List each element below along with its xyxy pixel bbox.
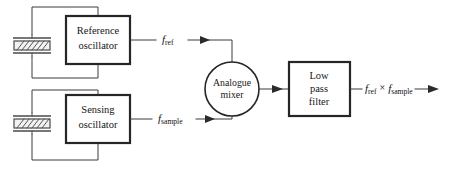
- schematic-diagram: Reference oscillator fref Sensing: [0, 0, 463, 178]
- f-ref-label: fref: [162, 33, 174, 47]
- sensing-crystal-body: [14, 119, 50, 128]
- reference-oscillator-label-line2: oscillator: [78, 40, 118, 51]
- sensing-oscillator-label-line2: oscillator: [78, 119, 118, 130]
- sensing-oscillator-label-line1: Sensing: [81, 104, 115, 115]
- f-sample-label: fsample: [158, 112, 183, 126]
- low-pass-filter-label-line2: pass: [310, 83, 328, 94]
- analogue-mixer-label-line1: Analogue: [213, 77, 252, 88]
- reference-to-mixer-wire: [188, 40, 232, 62]
- f-ref-subscript: ref: [165, 37, 174, 46]
- low-pass-filter-label-line1: Low: [309, 70, 329, 81]
- output-operator: ×: [380, 82, 386, 93]
- reference-to-mixer-arrowhead: [200, 36, 210, 44]
- sensing-to-mixer-arrowhead: [205, 115, 215, 123]
- mixer-to-filter-arrowhead: [272, 85, 283, 93]
- f-sample-subscript: sample: [161, 116, 183, 125]
- reference-crystal-body: [14, 41, 50, 50]
- low-pass-filter-label-line3: filter: [309, 96, 330, 107]
- output-subscript-a: ref: [368, 86, 377, 95]
- reference-oscillator-label-line1: Reference: [77, 25, 120, 36]
- sensing-to-mixer-wire: [196, 116, 232, 119]
- output-subscript-b: sample: [391, 86, 413, 95]
- schematic-canvas: Reference oscillator fref Sensing: [0, 0, 463, 178]
- analogue-mixer-label-line2: mixer: [221, 89, 245, 100]
- output-signal-label: fref×fsample: [365, 82, 413, 96]
- output-arrowhead: [428, 85, 439, 93]
